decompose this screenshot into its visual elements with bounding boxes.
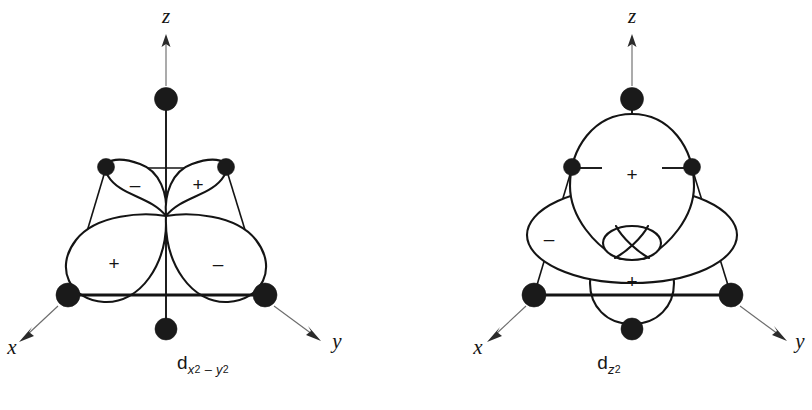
node-center-ellipse: [603, 226, 661, 260]
sign-lower-right: –: [213, 253, 224, 274]
caption-sub-var-1: z: [608, 362, 615, 377]
sign-upper-left: –: [130, 174, 141, 195]
sign-torus: –: [544, 228, 555, 249]
z-axis: z: [627, 4, 637, 86]
caption-sub-var-2: y: [216, 362, 223, 377]
ligand-rear-left: [564, 159, 581, 176]
caption-symbol: d: [597, 352, 608, 373]
ligand-rear-left: [98, 159, 115, 176]
diagram-d-x2-y2: z x y: [0, 0, 406, 410]
caption-sub-exp-2: 2: [223, 363, 229, 375]
caption-symbol: d: [177, 352, 188, 373]
orbital-figure: z x y: [0, 0, 812, 410]
ligand-top: [621, 88, 644, 111]
y-axis: y: [274, 306, 342, 353]
diagram-d-z2: z x y: [406, 0, 812, 410]
sign-upper-lobe: +: [626, 164, 637, 185]
ligand-front-right: [253, 283, 277, 307]
caption-d-z2: dz2: [406, 352, 812, 374]
ligand-front-right: [719, 283, 743, 307]
caption-sub-exp-1: 2: [195, 363, 201, 375]
z-axis: z: [161, 4, 171, 86]
y-axis-label: y: [330, 329, 342, 353]
z-axis-label: z: [161, 4, 170, 28]
ligand-bottom: [155, 318, 177, 340]
caption-d-x2-y2: dx2 – y2: [0, 352, 406, 374]
x-axis: x: [472, 306, 526, 359]
z-axis-label: z: [627, 4, 636, 28]
y-axis-label: y: [793, 329, 805, 353]
sign-lower-left: +: [108, 253, 119, 274]
caption-sub-operator: –: [205, 362, 212, 377]
caption-sub-exp-1: 2: [615, 363, 621, 375]
panel-d-z2: z x y: [406, 0, 812, 410]
y-axis: y: [740, 306, 805, 353]
ligand-front-left: [56, 283, 80, 307]
sign-upper-right: +: [192, 174, 203, 195]
panel-d-x2-y2: z x y: [0, 0, 406, 410]
ligand-rear-right: [218, 159, 235, 176]
ligand-front-left: [522, 283, 546, 307]
x-axis: x: [6, 306, 58, 359]
ligand-bottom: [621, 318, 643, 340]
orbital-d-z2: + – +: [527, 114, 737, 324]
sign-lower-lobe: +: [626, 271, 637, 292]
ligand-top: [155, 88, 178, 111]
caption-sub-var-1: x: [188, 362, 195, 377]
ligand-rear-right: [684, 159, 701, 176]
